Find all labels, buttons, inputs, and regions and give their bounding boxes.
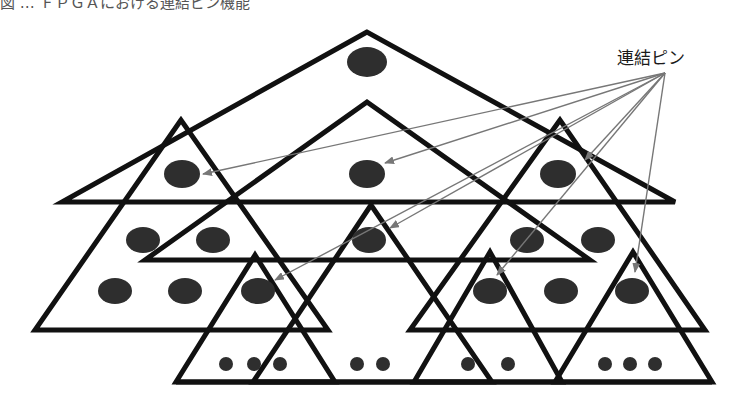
logic-nodes bbox=[98, 47, 662, 371]
node-large bbox=[615, 278, 649, 304]
node-small bbox=[461, 357, 475, 371]
node-large bbox=[544, 278, 578, 304]
node-large bbox=[241, 278, 275, 304]
node-large bbox=[126, 227, 160, 253]
figure-title-partial: 図 … ＦＰＧＡにおける連結ピン機能 bbox=[0, 0, 250, 12]
node-small bbox=[350, 357, 364, 371]
node-large bbox=[168, 278, 202, 304]
node-small bbox=[648, 357, 662, 371]
node-small bbox=[273, 357, 287, 371]
triangle-b3 bbox=[414, 252, 562, 382]
node-large bbox=[581, 227, 615, 253]
connection-pin-label: 連結ピン bbox=[617, 44, 685, 69]
node-large bbox=[473, 278, 507, 304]
node-large bbox=[349, 160, 385, 188]
node-large bbox=[196, 227, 230, 253]
node-small bbox=[598, 357, 612, 371]
node-small bbox=[219, 357, 233, 371]
node-large bbox=[347, 47, 387, 77]
node-small bbox=[501, 357, 515, 371]
node-small bbox=[376, 357, 390, 371]
fpga-hierarchy-diagram: 図 … ＦＰＧＡにおける連結ピン機能 連結ピン bbox=[0, 0, 739, 412]
node-small bbox=[623, 357, 637, 371]
node-large bbox=[540, 160, 576, 188]
node-small bbox=[247, 357, 261, 371]
node-large bbox=[98, 278, 132, 304]
node-large bbox=[164, 160, 200, 188]
